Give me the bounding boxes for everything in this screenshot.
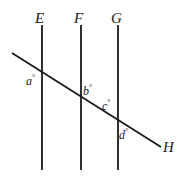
degree-sign-a: ° [32, 73, 35, 82]
geometry-figure: E F G H a° b° c° d° [0, 0, 181, 179]
degree-sign-c: ° [107, 98, 110, 107]
line-label-e: E [35, 11, 44, 26]
line-label-f: F [74, 11, 83, 26]
line-label-g: G [111, 11, 122, 26]
line-label-h: H [163, 140, 174, 155]
degree-sign-b: ° [89, 83, 92, 92]
angle-label-a: a° [26, 74, 35, 87]
angle-label-d: d° [119, 128, 128, 141]
angle-label-b: b° [83, 84, 92, 97]
angle-label-c: c° [102, 99, 111, 112]
transversal-line-h [12, 53, 161, 147]
degree-sign-d: ° [125, 127, 128, 136]
